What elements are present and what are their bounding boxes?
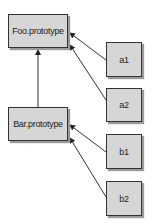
node-bar-prototype: Bar.prototype	[8, 107, 68, 141]
edge-b2-bar	[70, 138, 106, 197]
node-label: a2	[119, 100, 128, 110]
node-a1: a1	[106, 42, 142, 77]
node-a2: a2	[106, 88, 142, 122]
node-label: Bar.prototype	[13, 119, 63, 129]
edge-a2-foo	[70, 45, 106, 100]
node-b2: b2	[106, 181, 142, 216]
edge-a1-foo	[70, 33, 106, 60]
node-foo-prototype: Foo.prototype	[8, 14, 68, 48]
node-label: b2	[119, 194, 128, 204]
node-label: a1	[119, 55, 128, 65]
node-label: Foo.prototype	[12, 26, 64, 36]
node-label: b1	[119, 147, 128, 157]
node-b1: b1	[106, 134, 142, 169]
edge-b1-bar	[70, 125, 106, 152]
